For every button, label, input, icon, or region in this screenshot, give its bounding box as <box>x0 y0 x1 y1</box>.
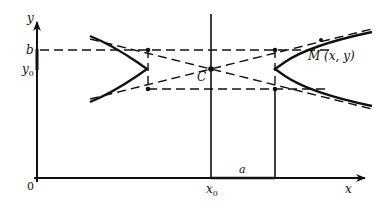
a-label: a <box>239 163 246 176</box>
point-m <box>319 38 323 42</box>
x0-label: x0 <box>206 182 218 198</box>
x-axis-label: x <box>345 182 352 196</box>
left-bottom-point <box>146 87 151 92</box>
y0-label: y0 <box>21 62 34 78</box>
left-top-point <box>146 48 151 53</box>
asymptote-rising <box>90 29 372 99</box>
hyperbola-figure: y x 0 b y0 C M (x, y) a x0 <box>0 0 383 208</box>
hyperbola-right-branch <box>275 32 372 106</box>
right-bottom-point <box>273 87 278 92</box>
origin-label: 0 <box>27 180 34 193</box>
right-top-point <box>273 48 278 53</box>
b-label: b <box>26 43 34 57</box>
center-point <box>208 66 214 72</box>
center-label: C <box>197 70 206 84</box>
point-m-label: M (x, y) <box>307 49 355 63</box>
y-axis-label: y <box>26 11 34 25</box>
